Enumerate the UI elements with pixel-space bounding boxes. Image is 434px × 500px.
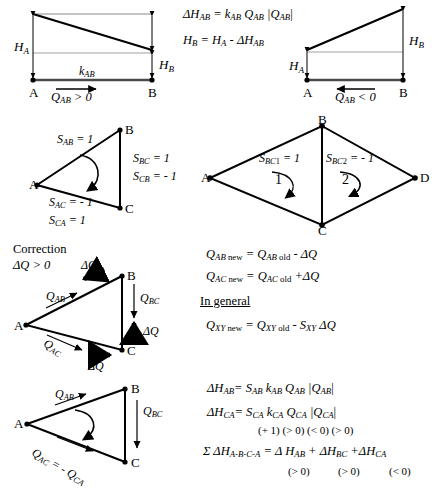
equation-sum-delta-h: Σ ΔHA-B-C-A = Δ HAB + ΔHBC +ΔHCA bbox=[203, 445, 386, 458]
in-general-heading: In general bbox=[200, 295, 250, 308]
node-label-b: B bbox=[399, 86, 408, 99]
flow-correction-figure: Correction ΔQ > 0 bbox=[0, 240, 200, 370]
hydraulic-grade-line bbox=[307, 9, 403, 50]
node-dot-d bbox=[412, 175, 418, 181]
node-label-a: A bbox=[14, 417, 23, 430]
label-hb: HB bbox=[409, 34, 424, 47]
node-label-b: B bbox=[125, 123, 134, 136]
node-dot-a bbox=[30, 77, 35, 82]
node-label-b: B bbox=[318, 113, 327, 126]
equation-qab-new: QAB new = QAB old - ΔQ bbox=[206, 248, 317, 261]
label-hb: HB bbox=[159, 58, 174, 71]
label-s-bc1: SBC1 = 1 bbox=[259, 152, 300, 164]
label-k-ab: kAB bbox=[79, 65, 95, 77]
sign-annotations-line1: (+ 1) (> 0) (< 0) (> 0) bbox=[258, 425, 353, 436]
label-s-bc2: SBC2 = - 1 bbox=[326, 152, 374, 164]
equation-hb: HB = HA - ΔHAB bbox=[183, 34, 264, 47]
node-label-a: A bbox=[29, 86, 38, 99]
label-flow-qab: QAB < 0 bbox=[335, 91, 376, 104]
node-label-d: D bbox=[420, 171, 429, 184]
label-q-ab: QAB bbox=[46, 290, 65, 302]
node-label-c: C bbox=[131, 456, 140, 469]
shared-branch-two-loops-rhombus: A B D C SBC1 = 1 SBC2 = - 1 1 2 bbox=[200, 110, 434, 235]
equation-qxy-new: QXY new = QXY old - SXY ΔQ bbox=[206, 319, 336, 332]
node-dot-b bbox=[149, 77, 154, 82]
node-label-b: B bbox=[127, 269, 136, 282]
label-flow-qab: QAB > 0 bbox=[51, 91, 92, 104]
node-dot-a bbox=[23, 322, 28, 327]
node-label-a: A bbox=[201, 171, 210, 184]
sign-annotation-ca: (< 0) bbox=[389, 466, 411, 477]
node-label-b: B bbox=[131, 382, 140, 395]
node-label-c: C bbox=[127, 344, 136, 357]
label-s-ac: SAC = - 1 bbox=[49, 196, 93, 208]
node-label-a: A bbox=[29, 178, 38, 191]
node-label-a: A bbox=[303, 86, 312, 99]
loop-direction-arrow bbox=[75, 410, 94, 438]
node-label-c: C bbox=[125, 202, 134, 215]
node-dot-b bbox=[117, 127, 122, 132]
loop1-number-label: 1 bbox=[275, 173, 282, 187]
rhombus-svg bbox=[200, 110, 434, 235]
node-dot-a bbox=[24, 421, 29, 426]
node-dot-c bbox=[122, 459, 127, 464]
hydraulic-grade-line bbox=[33, 14, 152, 50]
sign-annotation-ab: (> 0) bbox=[288, 466, 310, 477]
label-ha: HA bbox=[289, 59, 304, 72]
sign-annotation-bc: (> 0) bbox=[338, 466, 360, 477]
label-q-bc: QBC bbox=[143, 405, 162, 417]
label-ha: HA bbox=[14, 40, 29, 53]
q-ac-flow-arrow bbox=[57, 437, 93, 451]
label-s-cb: SCB = - 1 bbox=[133, 170, 177, 182]
row4-equations: ΔHAB= SAB kAB QAB |QAB| ΔHCA= SCA kCA QC… bbox=[203, 382, 434, 492]
label-s-ab: SAB = 1 bbox=[57, 133, 93, 145]
node-label-b: B bbox=[148, 86, 157, 99]
rhombus-outline bbox=[210, 126, 415, 225]
negative-flow-head-loss-diagram: HA HB QAB < 0 A B bbox=[285, 0, 434, 105]
node-label-a: A bbox=[14, 319, 23, 332]
loop-flow-direction-triangle: A B C QAB QBC QAC = - QCA bbox=[0, 372, 200, 500]
loop-flow-triangle-svg bbox=[0, 372, 200, 500]
figure-canvas: HA HB kAB QAB > 0 A B ΔHAB = kAB QAB |QA… bbox=[0, 0, 434, 500]
positive-flow-head-loss-diagram: HA HB kAB QAB > 0 A B bbox=[0, 0, 200, 105]
loop2-number-label: 2 bbox=[342, 173, 349, 187]
label-s-ca: SCA = 1 bbox=[49, 214, 86, 226]
equation-qac-new: QAC new = QAC old +ΔQ bbox=[206, 270, 319, 283]
node-dot-c bbox=[117, 205, 122, 210]
node-dot-a bbox=[304, 77, 309, 82]
label-delta-q-ab: ΔQ bbox=[81, 259, 97, 271]
node-dot-c bbox=[119, 347, 124, 352]
label-q-bc: QBC bbox=[140, 292, 159, 304]
row3-equations: QAB new = QAB old - ΔQ QAC new = QAC old… bbox=[206, 248, 434, 358]
equation-delta-h-ab: ΔHAB= SAB kAB QAB |QAB| bbox=[207, 382, 334, 395]
node-dot-b bbox=[122, 386, 127, 391]
triangle-outline bbox=[26, 276, 122, 350]
correction-condition: ΔQ > 0 bbox=[13, 259, 50, 272]
node-label-c: C bbox=[318, 224, 327, 237]
correction-heading: Correction bbox=[13, 243, 66, 256]
label-delta-q-bc: ΔQ bbox=[143, 325, 159, 337]
node-dot-b bbox=[119, 273, 124, 278]
label-s-bc: SBC = 1 bbox=[133, 152, 170, 164]
loop-direction-arrow bbox=[80, 155, 98, 189]
label-delta-q-ac: ΔQ bbox=[88, 360, 104, 372]
node-dot-b bbox=[400, 77, 405, 82]
label-q-ab: QAB bbox=[55, 388, 74, 400]
equation-delta-h-ca: ΔHCA= SCA kCA QCA |QCA| bbox=[207, 406, 336, 419]
sign-convention-triangle: A B C SAB = 1 SBC = 1 SCB = - 1 SAC = - … bbox=[0, 110, 200, 235]
equation-delta-h-ab: ΔHAB = kAB QAB |QAB| bbox=[183, 8, 293, 21]
